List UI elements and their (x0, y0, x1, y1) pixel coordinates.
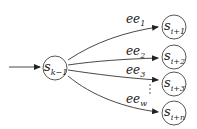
target-node-in: si+n (162, 101, 186, 125)
edge-label-eew: eew (126, 92, 147, 108)
edge-label-ee3: ee3 (126, 63, 145, 79)
edge-label-ee2: ee2 (126, 44, 145, 60)
target-node-i1: si+1 (162, 15, 186, 39)
ellipsis-icon (149, 84, 151, 94)
source-node: sk−1 (43, 56, 67, 80)
target-node-i2: si+2 (162, 45, 186, 69)
state-diagram: sk−1 ee1 ee2 ee3 eew si+1 si+2 si+3 si+n (0, 0, 197, 129)
edge-label-ee1: ee1 (126, 12, 145, 28)
target-node-i3: si+3 (162, 72, 186, 96)
